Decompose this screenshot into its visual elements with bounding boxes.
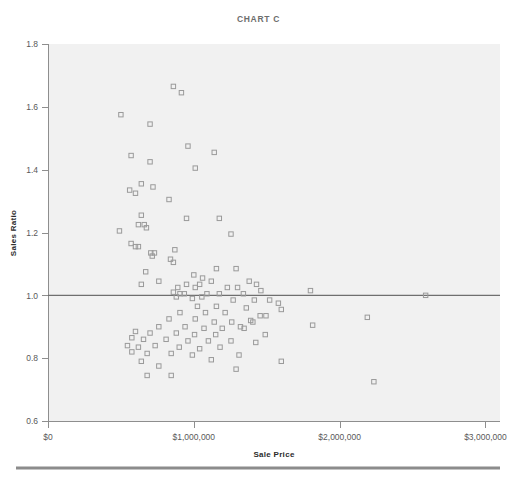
x-tick-label: $3,000,000 (464, 432, 507, 442)
x-tick-label: $0 (43, 432, 53, 442)
x-axis-title: Sale Price (253, 450, 295, 459)
y-axis-title: Sales Ratio (9, 210, 18, 256)
y-tick-label: 1.4 (26, 165, 38, 175)
y-tick-label: 1.2 (26, 228, 38, 238)
x-tick-label: $1,000,000 (173, 432, 216, 442)
x-tick-label: $2,000,000 (318, 432, 361, 442)
y-tick-label: 0.6 (26, 416, 38, 426)
y-axis-ticks: 0.60.81.01.21.41.61.8 (26, 39, 48, 426)
x-axis-ticks: $0$1,000,000$2,000,000$3,000,000 (43, 421, 507, 442)
chart-container: CHART C 0.60.81.01.21.41.61.8 $0$1,000,0… (0, 0, 517, 481)
y-tick-label: 1.8 (26, 39, 38, 49)
y-tick-label: 1.0 (26, 291, 38, 301)
y-tick-label: 0.8 (26, 353, 38, 363)
y-tick-label: 1.6 (26, 102, 38, 112)
scatter-plot: 0.60.81.01.21.41.61.8 $0$1,000,000$2,000… (0, 0, 517, 481)
plot-background (48, 44, 500, 421)
